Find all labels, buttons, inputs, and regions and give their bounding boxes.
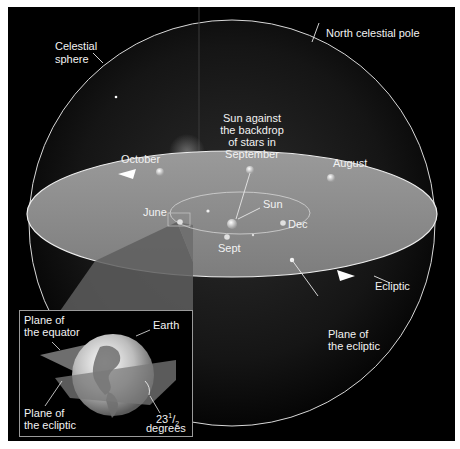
label-celestial-sphere-2: sphere (55, 53, 89, 65)
ecliptic-plane (27, 151, 437, 277)
tilt-numerator: 1 (168, 412, 172, 419)
earth-dec (280, 220, 286, 226)
label-august: August (333, 157, 367, 169)
earth-march (206, 209, 209, 212)
inset-label-ecliptic-2: the ecliptic (24, 419, 76, 431)
label-june: June (143, 206, 167, 218)
label-plane-ecliptic-2: the ecliptic (328, 340, 380, 352)
sun (227, 219, 237, 229)
label-ecliptic: Ecliptic (375, 280, 410, 292)
label-plane-ecliptic-1: Plane of (328, 328, 368, 340)
label-celestial-sphere-1: Celestial (55, 40, 97, 52)
label-north-celestial-pole: North celestial pole (326, 27, 420, 39)
label-sun-backdrop-1: Sun against (212, 112, 292, 124)
label-sept: Sept (218, 242, 241, 254)
inset-label-equator-2: the equator (24, 326, 80, 338)
label-sun-backdrop-3: of stars in (212, 136, 292, 148)
inset-label-degrees: degrees (146, 422, 186, 434)
star (252, 234, 254, 236)
label-dec: Dec (288, 218, 308, 230)
celestial-sphere-diagram: North celestial pole Celestial sphere Su… (0, 0, 460, 449)
sun-october (156, 168, 164, 176)
label-sun: Sun (263, 198, 283, 210)
label-sun-backdrop-4: September (212, 148, 292, 160)
sun-august (327, 174, 335, 182)
earth-sept (224, 234, 230, 240)
earth-june (177, 219, 183, 225)
sun-september (246, 166, 254, 174)
inset-label-equator-1: Plane of (24, 314, 64, 326)
inset-label-earth: Earth (153, 319, 179, 331)
star (115, 96, 118, 99)
inset-label-ecliptic-1: Plane of (24, 407, 64, 419)
label-sun-backdrop-2: the backdrop (212, 124, 292, 136)
label-october: October (121, 153, 160, 165)
